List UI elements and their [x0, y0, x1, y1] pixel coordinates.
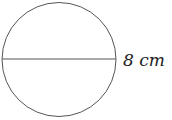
- diameter-label: 8 cm: [123, 51, 165, 69]
